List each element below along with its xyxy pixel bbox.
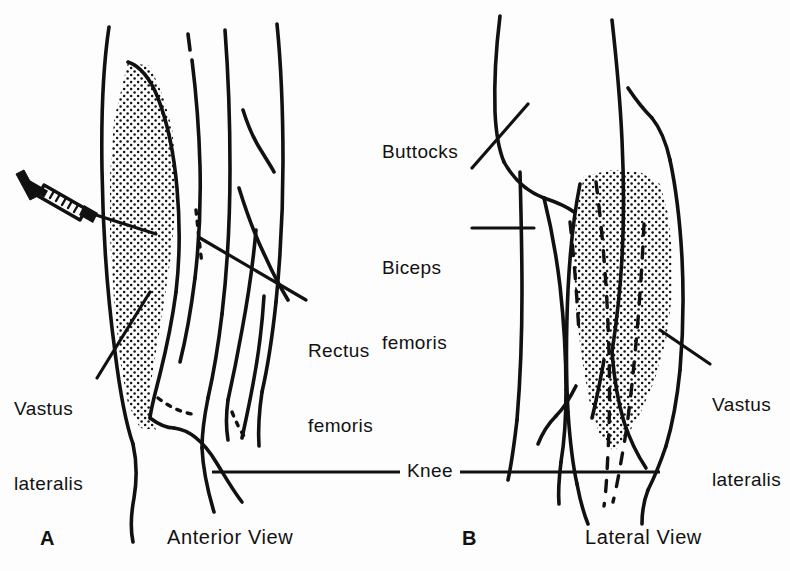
- panel-letter-b: B: [462, 527, 477, 550]
- label-knee: Knee: [400, 460, 460, 482]
- panel-b-lateral-view: [472, 16, 710, 524]
- label-vastus-lateralis-anterior: Vastus lateralis: [14, 346, 83, 546]
- leader-vastus-lateralis-b: [660, 330, 710, 364]
- label-line-2: femoris: [382, 330, 447, 355]
- label-line-1: Rectus: [308, 338, 373, 363]
- caption-lateral-view: Lateral View: [585, 526, 702, 549]
- label-line-1: Vastus: [14, 396, 83, 421]
- leader-buttocks: [472, 104, 528, 168]
- label-line-1: Vastus: [712, 392, 781, 417]
- caption-anterior-view: Anterior View: [167, 526, 293, 549]
- label-line-2: lateralis: [712, 467, 781, 492]
- label-rectus-femoris: Rectus femoris: [308, 288, 373, 488]
- label-vastus-lateralis-lateral: Vastus lateralis: [712, 342, 781, 542]
- label-biceps-femoris: Biceps femoris: [382, 205, 447, 405]
- label-line-2: femoris: [308, 413, 373, 438]
- label-buttocks: Buttocks: [382, 140, 458, 164]
- label-line-2: lateralis: [14, 471, 83, 496]
- anatomy-figure: Vastus lateralis Rectus femoris Buttocks…: [0, 0, 790, 571]
- panel-letter-a: A: [40, 527, 55, 550]
- label-line-1: Biceps: [382, 255, 447, 280]
